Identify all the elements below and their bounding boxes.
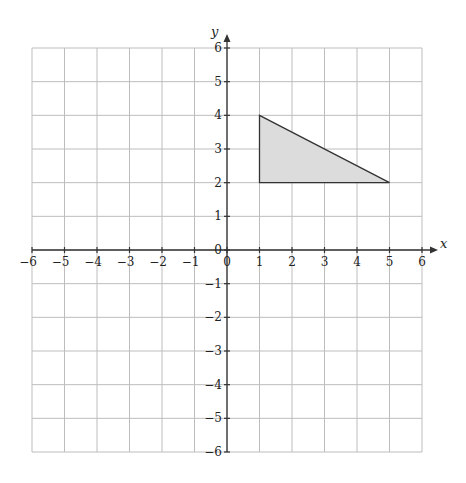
y-axis-label: y [210,24,219,39]
y-tick-label: 1 [214,209,222,223]
x-tick-label: −2 [149,255,167,269]
x-tick-label: −6 [19,255,37,269]
axes: x y [32,24,448,452]
x-tick-labels: −6−5−4−3−2−10123456 [19,255,426,269]
y-tick-label: −1 [204,277,222,291]
x-tick-label: 3 [321,255,329,269]
y-tick-label: −6 [204,445,222,459]
y-axis-arrow-icon [224,34,231,42]
y-tick-label: 3 [214,142,222,156]
x-tick-label: −5 [52,255,70,269]
y-tick-label: 0 [214,243,222,257]
x-tick-label: 2 [288,255,296,269]
x-tick-label: −4 [84,255,102,269]
coordinate-plane: x y −6−5−4−3−2−10123456 −6−5−4−3−2−10123… [0,0,466,483]
x-tick-label: 0 [223,255,231,269]
x-tick-label: −3 [117,255,135,269]
y-tick-label: 2 [214,176,222,190]
x-tick-label: −1 [182,255,200,269]
x-tick-label: 4 [353,255,361,269]
y-tick-label: 6 [214,41,222,55]
x-tick-label: 5 [386,255,394,269]
x-tick-label: 6 [418,255,426,269]
y-tick-label: −2 [204,310,222,324]
x-axis-arrow-icon [430,247,438,254]
y-tick-label: −4 [204,378,222,392]
y-tick-label: −3 [204,344,222,358]
y-tick-label: −5 [204,411,222,425]
y-tick-label: 4 [214,108,222,122]
x-tick-label: 1 [256,255,264,269]
x-axis-label: x [440,236,448,251]
y-tick-label: 5 [214,75,222,89]
